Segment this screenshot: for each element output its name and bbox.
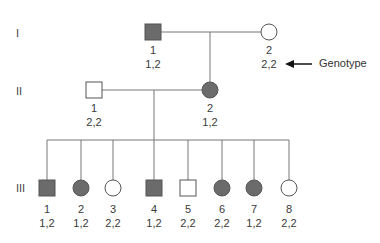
individual-label: 21,2 xyxy=(195,102,225,128)
individual-label: 82,2 xyxy=(274,203,304,229)
affected-female-symbol xyxy=(202,82,218,98)
unaffected-male-symbol xyxy=(180,180,196,196)
individual-number: 2 xyxy=(195,102,225,114)
individual-label: 62,2 xyxy=(207,203,237,229)
individual-label: 12,2 xyxy=(79,102,109,128)
left-arrow-icon xyxy=(285,60,294,68)
individual-number: 8 xyxy=(274,203,304,215)
generation-label: III xyxy=(16,182,36,194)
individual-genotype: 2,2 xyxy=(207,217,237,229)
individual-label: 71,2 xyxy=(239,203,269,229)
affected-female-symbol xyxy=(214,180,230,196)
generation-label: II xyxy=(16,85,36,97)
unaffected-male-symbol xyxy=(86,82,102,98)
affected-male-symbol xyxy=(145,24,161,40)
individual-number: 1 xyxy=(138,44,168,56)
generation-label: I xyxy=(16,27,36,39)
individual-label: 32,2 xyxy=(98,203,128,229)
individual-number: 2 xyxy=(254,44,284,56)
affected-male-symbol xyxy=(39,180,55,196)
affected-female-symbol xyxy=(246,180,262,196)
individual-label: 41,2 xyxy=(139,203,169,229)
individual-genotype: 2,2 xyxy=(274,217,304,229)
individual-label: 22,2 xyxy=(254,44,284,70)
individual-genotype: 1,2 xyxy=(195,116,225,128)
individual-number: 3 xyxy=(98,203,128,215)
individual-label: 52,2 xyxy=(173,203,203,229)
individual-genotype: 2,2 xyxy=(254,58,284,70)
individual-genotype: 1,2 xyxy=(138,58,168,70)
individual-label: 21,2 xyxy=(66,203,96,229)
individual-number: 2 xyxy=(66,203,96,215)
individual-label: 11,2 xyxy=(32,203,62,229)
affected-female-symbol xyxy=(73,180,89,196)
individual-label: 11,2 xyxy=(138,44,168,70)
individual-number: 6 xyxy=(207,203,237,215)
affected-male-symbol xyxy=(146,180,162,196)
individual-number: 5 xyxy=(173,203,203,215)
individual-genotype: 1,2 xyxy=(239,217,269,229)
unaffected-female-symbol xyxy=(281,180,297,196)
individual-number: 7 xyxy=(239,203,269,215)
individual-number: 4 xyxy=(139,203,169,215)
individual-genotype: 1,2 xyxy=(32,217,62,229)
unaffected-female-symbol xyxy=(261,24,277,40)
individual-genotype: 1,2 xyxy=(139,217,169,229)
individual-number: 1 xyxy=(32,203,62,215)
individual-number: 1 xyxy=(79,102,109,114)
individual-genotype: 2,2 xyxy=(173,217,203,229)
individual-genotype: 2,2 xyxy=(79,116,109,128)
individual-genotype: 2,2 xyxy=(98,217,128,229)
genotype-annotation: Genotype xyxy=(319,57,367,69)
individual-genotype: 1,2 xyxy=(66,217,96,229)
unaffected-female-symbol xyxy=(105,180,121,196)
